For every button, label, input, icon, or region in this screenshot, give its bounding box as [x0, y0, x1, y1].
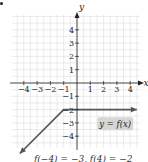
- svg-text:4: 4: [69, 26, 74, 35]
- svg-text:1: 1: [69, 66, 74, 75]
- svg-text:2: 2: [101, 85, 106, 94]
- svg-text:−4: −4: [18, 85, 30, 94]
- svg-text:x: x: [143, 78, 148, 88]
- svg-text:4: 4: [128, 85, 133, 94]
- svg-text:−3: −3: [62, 119, 74, 128]
- svg-text:−4: −4: [62, 132, 74, 141]
- svg-text:2: 2: [69, 52, 74, 61]
- svg-text:1: 1: [88, 85, 93, 94]
- caption: f(−4) = −3, f(4) = −2: [34, 154, 132, 162]
- svg-text:y: y: [78, 2, 85, 12]
- svg-text:y = f(x): y = f(x): [98, 119, 131, 129]
- function-label: y = f(x): [97, 117, 133, 130]
- svg-text:3: 3: [114, 85, 119, 94]
- function-graph: xy −4−3−2−112344321−1−2−3−4 y = f(x): [0, 0, 148, 162]
- svg-text:−2: −2: [45, 85, 57, 94]
- svg-text:−1: −1: [62, 92, 74, 101]
- svg-text:3: 3: [69, 39, 74, 48]
- svg-text:−2: −2: [62, 106, 74, 115]
- svg-text:−3: −3: [31, 85, 43, 94]
